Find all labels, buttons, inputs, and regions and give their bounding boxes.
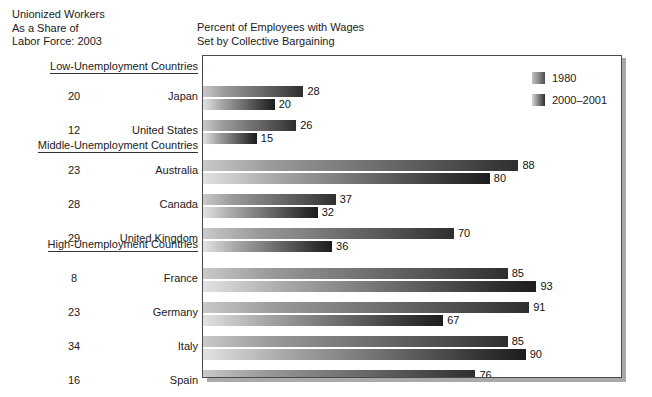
legend-swatch-2000-2001-icon (532, 94, 545, 106)
bar-value-2000-2001-united-states: 15 (261, 133, 273, 144)
bar-value-1980-australia: 88 (522, 160, 534, 171)
country-label-united-states: United States (132, 124, 198, 136)
bar-1980-japan (203, 86, 303, 97)
bar-value-2000-2001-united-kingdom: 36 (336, 241, 348, 252)
bar-value-2000-2001-australia: 80 (494, 173, 506, 184)
collective-bargaining-heading: Percent of Employees with Wages Set by C… (197, 21, 364, 48)
bar-1980-united-kingdom (203, 228, 454, 239)
bar-1980-australia (203, 160, 518, 171)
bar-value-1980-france: 85 (512, 268, 524, 279)
union-share-france: 8 (58, 272, 90, 284)
legend-item-1980: 1980 (532, 72, 607, 84)
bar-value-2000-2001-italy: 90 (530, 349, 542, 360)
union-share-united-states: 12 (58, 124, 90, 136)
union-share-germany: 23 (58, 306, 90, 318)
country-label-united-kingdom: United Kingdom (120, 232, 198, 244)
bar-1980-canada (203, 194, 336, 205)
union-share-spain: 16 (58, 374, 90, 386)
bar-2000-2001-italy (203, 349, 526, 360)
bar-value-1980-italy: 85 (512, 336, 524, 347)
section-header-middle: Middle-Unemployment Countries (38, 139, 198, 153)
chart-legend: 1980 2000–2001 (532, 72, 607, 116)
bar-2000-2001-germany (203, 315, 443, 326)
section-header-low: Low-Unemployment Countries (50, 60, 198, 74)
bar-2000-2001-france (203, 281, 536, 292)
country-label-germany: Germany (153, 306, 198, 318)
country-label-japan: Japan (168, 90, 198, 102)
bar-1980-france (203, 268, 508, 279)
legend-label-2000-2001: 2000–2001 (552, 94, 607, 106)
union-share-australia: 23 (58, 164, 90, 176)
bar-value-1980-spain: 76 (479, 370, 491, 378)
bar-value-1980-germany: 91 (533, 302, 545, 313)
legend-label-1980: 1980 (552, 72, 576, 84)
bar-value-1980-japan: 28 (307, 86, 319, 97)
country-label-spain: Spain (170, 374, 198, 386)
bar-2000-2001-united-states (203, 133, 257, 144)
bar-2000-2001-united-kingdom (203, 241, 332, 252)
bar-1980-italy (203, 336, 508, 347)
bar-2000-2001-japan (203, 99, 275, 110)
bar-1980-germany (203, 302, 529, 313)
union-share-italy: 34 (58, 340, 90, 352)
bar-1980-spain (203, 370, 475, 378)
bar-value-1980-canada: 37 (340, 194, 352, 205)
country-label-australia: Australia (155, 164, 198, 176)
bar-value-1980-united-kingdom: 70 (458, 228, 470, 239)
bar-value-2000-2001-japan: 20 (279, 99, 291, 110)
legend-swatch-1980-icon (532, 72, 545, 84)
country-label-italy: Italy (178, 340, 198, 352)
union-share-united-kingdom: 29 (58, 232, 90, 244)
country-label-canada: Canada (159, 198, 198, 210)
bar-value-1980-united-states: 26 (300, 120, 312, 131)
legend-item-2000-2001: 2000–2001 (532, 94, 607, 106)
union-share-canada: 28 (58, 198, 90, 210)
union-share-japan: 20 (58, 90, 90, 102)
country-label-france: France (164, 272, 198, 284)
bar-2000-2001-australia (203, 173, 490, 184)
bar-1980-united-states (203, 120, 296, 131)
left-label-column: Low-Unemployment Countries Middle-Unempl… (0, 0, 202, 397)
bar-value-2000-2001-germany: 67 (447, 315, 459, 326)
bar-value-2000-2001-france: 93 (540, 281, 552, 292)
bar-value-2000-2001-canada: 32 (322, 207, 334, 218)
chart-plot-area: 1980 2000–2001 2820261588803732703685939… (202, 55, 622, 378)
bar-2000-2001-canada (203, 207, 318, 218)
